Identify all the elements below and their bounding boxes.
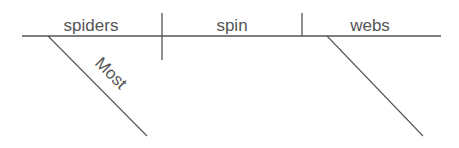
verb-word: spin <box>216 16 247 35</box>
subject-modifier-word: Most <box>91 53 131 93</box>
sentence-diagram: spiders spin webs Most <box>0 0 459 148</box>
object-word: webs <box>349 16 390 35</box>
subject-word: spiders <box>64 16 119 35</box>
subject-modifier-line <box>48 36 147 136</box>
object-modifier-line <box>327 36 423 136</box>
